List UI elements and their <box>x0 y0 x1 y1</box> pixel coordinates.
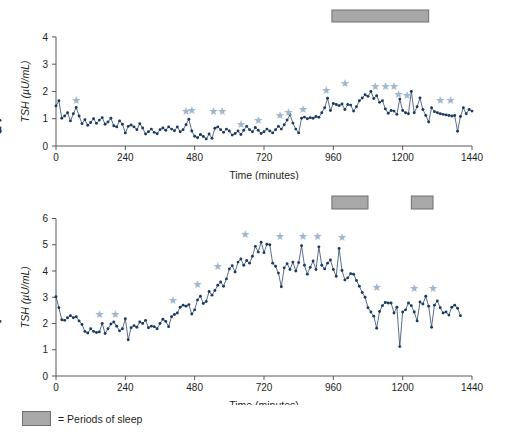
data-point <box>280 285 283 288</box>
significance-star-icon: ★ <box>321 84 331 97</box>
data-point <box>78 115 81 118</box>
data-point <box>263 130 266 133</box>
data-point <box>173 129 176 132</box>
data-point <box>170 128 173 131</box>
data-point <box>216 125 219 128</box>
data-point <box>361 291 364 294</box>
data-point <box>384 107 387 110</box>
data-point <box>265 128 268 131</box>
data-point <box>208 133 211 136</box>
data-point <box>231 134 234 137</box>
data-point <box>335 103 338 106</box>
data-point <box>72 112 75 115</box>
data-point <box>413 111 416 114</box>
data-point <box>338 104 341 107</box>
data-point <box>185 305 188 308</box>
data-point <box>291 261 294 264</box>
data-point <box>329 109 332 112</box>
data-point <box>69 119 72 122</box>
data-point <box>349 104 352 107</box>
data-point <box>251 130 254 133</box>
data-point <box>109 117 112 120</box>
x-axis-tick-label: 0 <box>53 382 59 393</box>
data-point <box>109 323 112 326</box>
data-point <box>372 315 375 318</box>
data-point <box>83 330 86 333</box>
data-point <box>86 124 89 127</box>
tsh-sleep-figure: 01234024048072096012001440Time (minutes)… <box>0 0 509 441</box>
data-point <box>167 125 170 128</box>
data-point <box>173 313 176 316</box>
data-point <box>294 270 297 273</box>
data-point <box>101 116 104 119</box>
x-axis-tick-label: 480 <box>186 382 203 393</box>
data-point <box>349 272 352 275</box>
data-point <box>107 327 110 330</box>
y-axis-title: TSH (µU/mL) <box>19 266 31 328</box>
data-point <box>459 115 462 118</box>
data-point <box>297 261 300 264</box>
data-point <box>147 130 150 133</box>
data-point <box>306 117 309 120</box>
significance-star-icon: ★ <box>298 103 308 116</box>
data-point <box>468 108 471 111</box>
data-point <box>361 97 364 100</box>
data-point <box>442 113 445 116</box>
data-point <box>393 110 396 113</box>
data-point <box>268 130 271 133</box>
significance-star-icon: ★ <box>168 294 178 307</box>
data-point <box>424 295 427 298</box>
data-point <box>83 118 86 121</box>
data-point <box>127 338 130 341</box>
data-point <box>179 306 182 309</box>
data-point <box>245 259 248 262</box>
data-point <box>343 108 346 111</box>
y-axis-title: TSH (µU/mL) <box>19 60 31 122</box>
data-point <box>0 320 1 323</box>
data-point <box>156 327 159 330</box>
data-point <box>55 295 58 298</box>
y-axis-tick-label: 3 <box>42 59 48 70</box>
data-point <box>92 330 95 333</box>
data-point <box>202 135 205 138</box>
data-point <box>213 127 216 130</box>
data-point <box>144 319 147 322</box>
data-point <box>274 265 277 268</box>
data-point <box>471 110 474 113</box>
data-point <box>138 320 141 323</box>
data-point <box>208 290 211 293</box>
significance-star-icon: ★ <box>94 308 104 321</box>
data-point <box>323 267 326 270</box>
data-point <box>413 311 416 314</box>
data-point <box>447 314 450 317</box>
data-point <box>419 97 422 100</box>
data-point <box>55 104 58 107</box>
data-point <box>115 325 118 328</box>
data-point <box>159 128 162 131</box>
data-point <box>237 261 240 264</box>
data-point <box>404 308 407 311</box>
data-point <box>320 264 323 267</box>
data-point <box>251 255 254 258</box>
data-point <box>352 110 355 113</box>
data-point <box>107 121 110 124</box>
data-point <box>133 125 136 128</box>
data-point <box>453 304 456 307</box>
data-point <box>450 115 453 118</box>
data-point <box>95 122 98 125</box>
data-point <box>401 109 404 112</box>
series-line <box>56 242 460 346</box>
significance-star-icon: ★ <box>402 89 412 102</box>
data-point <box>274 128 277 131</box>
data-point <box>398 345 401 348</box>
data-point <box>147 326 150 329</box>
x-axis-title: Time (minutes) <box>229 399 299 405</box>
significance-star-icon: ★ <box>370 80 380 93</box>
data-point <box>332 268 335 271</box>
data-point <box>263 251 266 254</box>
data-point <box>456 307 459 310</box>
data-point <box>141 322 144 325</box>
data-point <box>89 121 92 124</box>
data-point <box>63 319 66 322</box>
legend: = Periods of sleep <box>22 411 142 426</box>
